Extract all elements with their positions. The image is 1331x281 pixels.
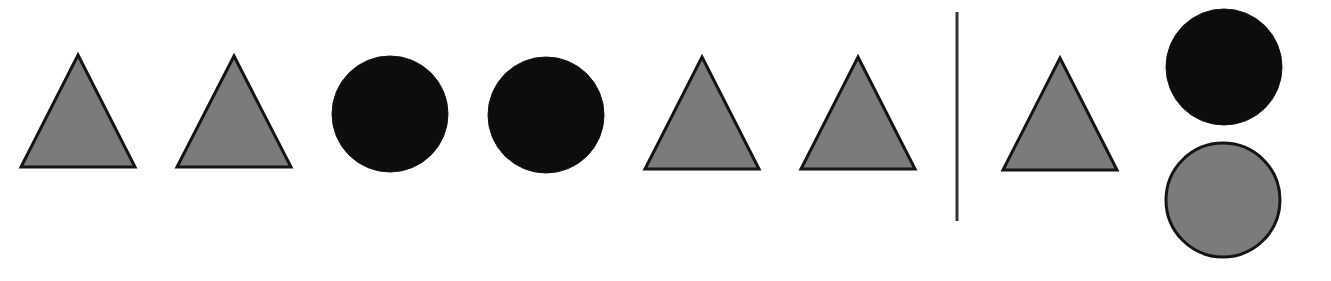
gray-triangle-icon bbox=[177, 56, 291, 167]
gray-triangle-icon bbox=[645, 57, 759, 169]
gray-triangle-icon bbox=[1003, 58, 1117, 170]
black-circle-icon bbox=[332, 56, 448, 172]
sequence-group bbox=[21, 55, 1117, 173]
gray-triangle-icon bbox=[21, 55, 135, 167]
answer-options-group bbox=[1166, 9, 1282, 257]
answer-option-2-gray-circle-icon[interactable] bbox=[1166, 143, 1280, 257]
puzzle-canvas bbox=[0, 0, 1331, 281]
answer-option-1-black-circle-icon[interactable] bbox=[1166, 9, 1282, 125]
black-circle-icon bbox=[488, 57, 604, 173]
gray-triangle-icon bbox=[801, 57, 915, 169]
